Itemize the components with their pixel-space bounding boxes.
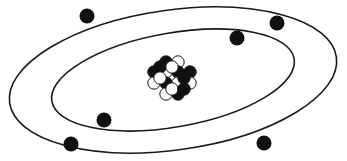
atom-canvas xyxy=(0,0,347,161)
nucleon-extra-left xyxy=(154,72,166,84)
electron-outer-bottom-right xyxy=(257,136,272,151)
electron-outer-bottom-left xyxy=(64,137,79,152)
nucleon-r0-c2 xyxy=(166,61,178,73)
nucleon-extra-low-left xyxy=(166,83,178,95)
electron-inner-top-right xyxy=(230,31,245,46)
electron-outer-top-left xyxy=(80,9,95,24)
electron-inner-bottom-left xyxy=(97,113,112,128)
nucleon-extra-low-right xyxy=(178,83,190,95)
electron-outer-top-right xyxy=(270,16,285,31)
atom-model-diagram xyxy=(0,0,347,161)
nucleus-group xyxy=(148,56,196,100)
